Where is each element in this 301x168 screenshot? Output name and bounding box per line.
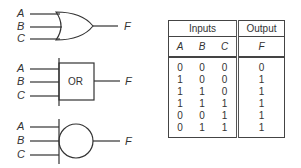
cell: 0: [169, 121, 192, 138]
input-label-b: B: [17, 76, 24, 87]
column-header-a: A: [169, 37, 192, 58]
gate-symbol-text: OR: [68, 77, 83, 87]
column-header-c: C: [213, 37, 238, 58]
cell: 0: [169, 109, 192, 121]
table-row: 1 1 0 1: [169, 85, 285, 97]
table-row: 0 0 0 0: [169, 57, 285, 73]
cell: 0: [213, 85, 238, 97]
or-gate-shape-icon: [30, 12, 118, 40]
cell: 0: [191, 109, 213, 121]
input-label-c: C: [17, 90, 25, 101]
cell: 0: [191, 73, 213, 85]
cell: 0: [169, 57, 192, 73]
cell: 1: [191, 121, 213, 138]
table-row: 1 1 1 1: [169, 97, 285, 109]
input-label-b: B: [17, 135, 24, 146]
cell: 1: [169, 85, 192, 97]
column-header-f: F: [238, 37, 285, 58]
input-label-c: C: [17, 149, 25, 160]
truth-table: Inputs Output A B C F 0 0 0 0 1 0 0 1 1 …: [168, 20, 285, 138]
input-label-c: C: [17, 33, 25, 44]
output-label-f: F: [124, 21, 131, 32]
cell: 1: [238, 73, 285, 85]
cell: 1: [238, 121, 285, 138]
cell: 0: [191, 57, 213, 73]
cell: 1: [238, 85, 285, 97]
input-label-a: A: [17, 63, 24, 74]
cell: 1: [213, 97, 238, 109]
cell: 1: [238, 109, 285, 121]
cell: 1: [213, 109, 238, 121]
table-row: 1 0 0 1: [169, 73, 285, 85]
cell: 0: [213, 57, 238, 73]
input-label-a: A: [17, 8, 24, 19]
input-label-b: B: [17, 21, 24, 32]
cell: 1: [213, 121, 238, 138]
table-row: 0 0 1 1: [169, 109, 285, 121]
output-header: Output: [238, 21, 285, 37]
column-header-b: B: [191, 37, 213, 58]
cell: 1: [169, 97, 192, 109]
output-label-f: F: [125, 76, 132, 87]
cell: 0: [238, 57, 285, 73]
cell: 1: [169, 73, 192, 85]
table-row: 0 1 1 1: [169, 121, 285, 138]
cell: 1: [191, 97, 213, 109]
cell: 0: [213, 73, 238, 85]
input-label-a: A: [17, 121, 24, 132]
or-gate-circle-icon: [30, 119, 120, 164]
output-label-f: F: [125, 136, 132, 147]
inputs-header: Inputs: [169, 21, 238, 37]
cell: 1: [191, 85, 213, 97]
cell: 1: [238, 97, 285, 109]
